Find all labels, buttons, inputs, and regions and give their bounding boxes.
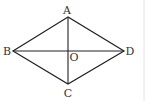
label-b: B (3, 45, 11, 58)
label-d: D (126, 45, 135, 58)
rhombus-diagram: A B C D O (0, 0, 147, 101)
label-a: A (62, 4, 72, 17)
label-o: O (69, 51, 78, 64)
label-c: C (64, 87, 72, 100)
